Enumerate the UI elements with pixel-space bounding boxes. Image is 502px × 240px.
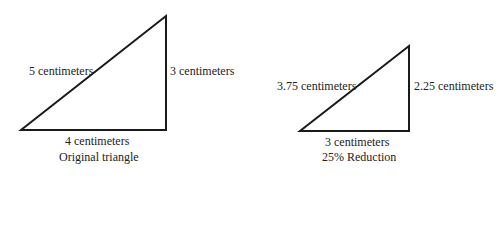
reduced-vertical-label: 2.25 centimeters bbox=[414, 79, 493, 93]
original-hypotenuse-label: 5 centimeters bbox=[29, 64, 93, 78]
reduced-base-label: 3 centimeters bbox=[325, 135, 389, 149]
reduced-hypotenuse-label: 3.75 centimeters bbox=[277, 79, 356, 93]
reduced-caption: 25% Reduction bbox=[322, 150, 396, 164]
original-base-label: 4 centimeters bbox=[65, 134, 129, 148]
original-caption: Original triangle bbox=[59, 150, 139, 164]
original-vertical-label: 3 centimeters bbox=[170, 64, 234, 78]
